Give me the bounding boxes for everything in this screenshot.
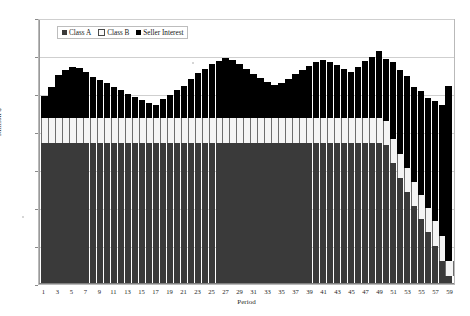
bar-segment-seller-interest	[202, 69, 208, 119]
bar-segment-seller-interest	[181, 86, 187, 119]
bar[interactable]	[181, 21, 187, 283]
bar[interactable]	[341, 21, 347, 283]
bar[interactable]	[125, 21, 131, 283]
bar[interactable]	[118, 21, 124, 283]
bar[interactable]	[376, 21, 382, 283]
bar-segment-class-a	[111, 143, 117, 283]
bar[interactable]	[362, 21, 368, 283]
bar[interactable]	[306, 21, 312, 283]
bar[interactable]	[188, 21, 194, 283]
bar-segment-class-a	[132, 143, 138, 283]
bar[interactable]	[348, 21, 354, 283]
bar-segment-seller-interest	[229, 60, 235, 118]
bar-segment-class-a	[264, 143, 270, 283]
bar[interactable]	[313, 21, 319, 283]
bar[interactable]	[285, 21, 291, 283]
bar[interactable]	[250, 21, 256, 283]
bar-segment-seller-interest	[195, 73, 201, 118]
bar-segment-class-a	[445, 276, 451, 283]
bar[interactable]	[334, 21, 340, 283]
bar[interactable]	[160, 21, 166, 283]
bar-segment-class-a	[425, 232, 431, 283]
bar[interactable]	[264, 21, 270, 283]
bar-segment-class-a	[160, 143, 166, 283]
bar-segment-class-a	[327, 143, 333, 283]
bar[interactable]	[278, 21, 284, 283]
scan-artifact	[192, 62, 194, 64]
bar-segment-class-a	[383, 145, 389, 283]
bar-segment-class-a	[90, 143, 96, 283]
bar-segment-seller-interest	[69, 67, 75, 118]
bar-segment-seller-interest	[216, 61, 222, 118]
bar[interactable]	[271, 21, 277, 283]
chart-legend: Class A Class B Seller Interest	[57, 26, 188, 39]
bar[interactable]	[390, 21, 396, 283]
bar[interactable]	[83, 21, 89, 283]
bar-segment-seller-interest	[376, 51, 382, 118]
bar[interactable]	[48, 21, 54, 283]
bar[interactable]	[355, 21, 361, 283]
bar[interactable]	[397, 21, 403, 283]
bar[interactable]	[209, 21, 215, 283]
bar[interactable]	[216, 21, 222, 283]
legend-item-seller-interest: Seller Interest	[136, 29, 183, 37]
bar-segment-class-a	[397, 178, 403, 283]
bar[interactable]	[55, 21, 61, 283]
bar-segment-seller-interest	[271, 85, 277, 119]
bar[interactable]	[146, 21, 152, 283]
bar-segment-class-a	[97, 143, 103, 283]
bar-segment-seller-interest	[97, 80, 103, 118]
bar[interactable]	[139, 21, 145, 283]
bar[interactable]	[111, 21, 117, 283]
bar-series-container	[40, 21, 453, 283]
bar[interactable]	[243, 21, 249, 283]
bar-segment-seller-interest	[139, 100, 145, 119]
bar-segment-seller-interest	[369, 57, 375, 119]
bar-segment-seller-interest	[257, 78, 263, 118]
bar[interactable]	[132, 21, 138, 283]
bar[interactable]	[222, 21, 228, 283]
bar[interactable]	[104, 21, 110, 283]
bar-segment-seller-interest	[83, 72, 89, 119]
bar-segment-seller-interest	[418, 91, 424, 195]
bar-segment-class-a	[153, 143, 159, 283]
bar[interactable]	[445, 21, 451, 283]
bar-segment-seller-interest	[299, 70, 305, 119]
bar-segment-seller-interest	[167, 95, 173, 118]
bar[interactable]	[299, 21, 305, 283]
bar[interactable]	[62, 21, 68, 283]
bar-segment-class-a	[411, 206, 417, 283]
bar-segment-class-a	[348, 143, 354, 283]
bar[interactable]	[97, 21, 103, 283]
bar[interactable]	[195, 21, 201, 283]
bar[interactable]	[425, 21, 431, 283]
y-axis-tick-mark	[35, 285, 38, 286]
bar[interactable]	[153, 21, 159, 283]
bar[interactable]	[202, 21, 208, 283]
bar[interactable]	[236, 21, 242, 283]
bar[interactable]	[418, 21, 424, 283]
bar[interactable]	[432, 21, 438, 283]
bar[interactable]	[76, 21, 82, 283]
bar-segment-seller-interest	[320, 60, 326, 118]
bar-segment-class-a	[216, 143, 222, 283]
plot-area	[38, 19, 455, 285]
bar[interactable]	[404, 21, 410, 283]
bar[interactable]	[439, 21, 445, 283]
bar[interactable]	[41, 21, 47, 283]
bar[interactable]	[69, 21, 75, 283]
bar[interactable]	[320, 21, 326, 283]
bar-segment-seller-interest	[76, 68, 82, 119]
bar[interactable]	[292, 21, 298, 283]
bar[interactable]	[383, 21, 389, 283]
bar[interactable]	[229, 21, 235, 283]
bar-segment-seller-interest	[348, 72, 354, 118]
bar[interactable]	[174, 21, 180, 283]
bar[interactable]	[257, 21, 263, 283]
bar[interactable]	[90, 21, 96, 283]
bar[interactable]	[369, 21, 375, 283]
bar-segment-class-a	[334, 143, 340, 283]
bar[interactable]	[167, 21, 173, 283]
bar[interactable]	[411, 21, 417, 283]
bar[interactable]	[327, 21, 333, 283]
